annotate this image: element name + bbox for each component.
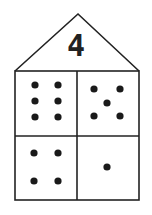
roof-number: 4 — [0, 31, 152, 61]
cell-top-left-dots — [31, 81, 61, 120]
cell-bottom-left-dots — [30, 149, 61, 184]
cell-bottom-right-dots — [103, 163, 110, 170]
cell-top-right-dots — [90, 85, 123, 119]
